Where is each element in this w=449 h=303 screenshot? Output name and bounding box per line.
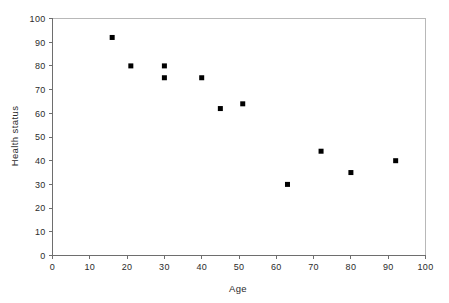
data-point [348,170,353,175]
data-point [110,35,115,40]
x-tick-label: 40 [196,262,207,272]
x-tick-label: 90 [383,262,394,272]
data-point [285,182,290,187]
y-tick-label: 80 [35,61,46,71]
x-tick-label: 50 [234,262,245,272]
data-point [218,106,223,111]
y-axis-ticks: 0102030405060708090100 [30,14,53,261]
x-tick-label: 0 [50,262,55,272]
x-axis-title: Age [229,283,247,294]
data-point [199,75,204,80]
x-tick-label: 70 [308,262,319,272]
x-tick-label: 30 [159,262,170,272]
data-point [162,63,167,68]
x-tick-label: 10 [84,262,95,272]
data-points [110,35,398,187]
data-point [128,63,133,68]
plot-frame [53,19,426,256]
data-point [240,101,245,106]
y-tick-label: 30 [35,180,46,190]
chart-canvas: 0102030405060708090100 01020304050607080… [0,0,449,303]
scatter-chart: 0102030405060708090100 01020304050607080… [0,0,449,303]
y-tick-label: 40 [35,156,46,166]
y-tick-label: 50 [35,132,46,142]
y-tick-label: 60 [35,109,46,119]
x-tick-label: 80 [346,262,357,272]
y-tick-label: 0 [40,251,45,261]
y-axis-title: Health status [9,106,20,167]
x-tick-label: 100 [418,262,434,272]
y-tick-label: 20 [35,203,46,213]
y-tick-label: 70 [35,85,46,95]
x-axis-ticks: 0102030405060708090100 [50,256,434,272]
y-tick-label: 100 [30,14,46,24]
data-point [319,149,324,154]
y-tick-label: 90 [35,38,46,48]
data-point [162,75,167,80]
x-tick-label: 60 [271,262,282,272]
data-point [393,158,398,163]
x-tick-label: 20 [122,262,133,272]
y-tick-label: 10 [35,227,46,237]
